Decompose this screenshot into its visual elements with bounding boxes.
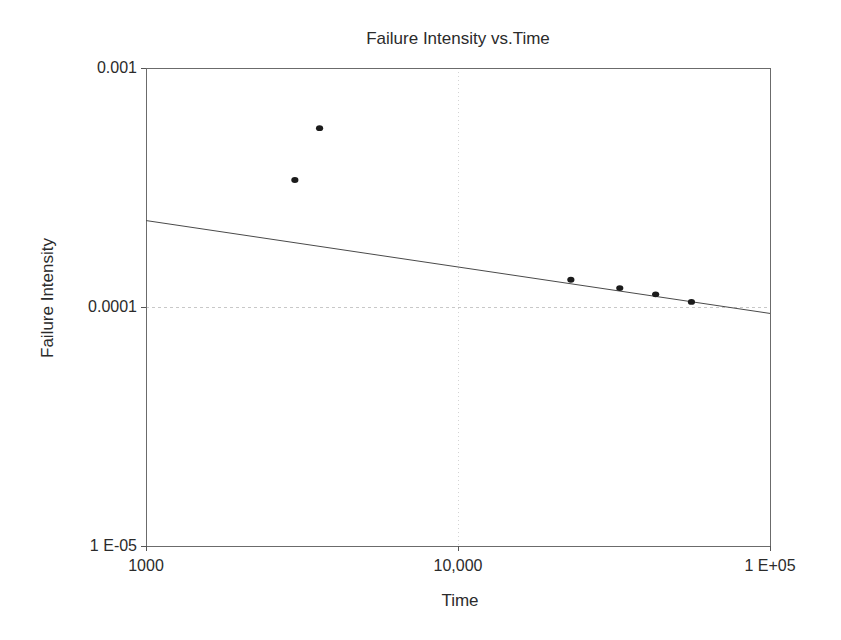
data-point	[616, 285, 623, 291]
data-point	[688, 299, 695, 305]
x-tick-label: 1000	[128, 557, 164, 575]
y-tick-label: 1 E-05	[90, 537, 137, 555]
x-tick-label: 1 E+05	[744, 557, 795, 575]
x-tick-label: 10,000	[434, 557, 483, 575]
data-point	[291, 177, 298, 183]
data-point	[652, 291, 659, 297]
y-tick-label: 0.0001	[88, 298, 137, 316]
failure-intensity-chart: Failure Intensity vs.Time Failure Intens…	[0, 0, 841, 640]
data-point	[567, 277, 574, 283]
y-tick-label: 0.001	[97, 59, 137, 77]
trend-line	[146, 221, 770, 314]
data-point	[316, 125, 323, 131]
